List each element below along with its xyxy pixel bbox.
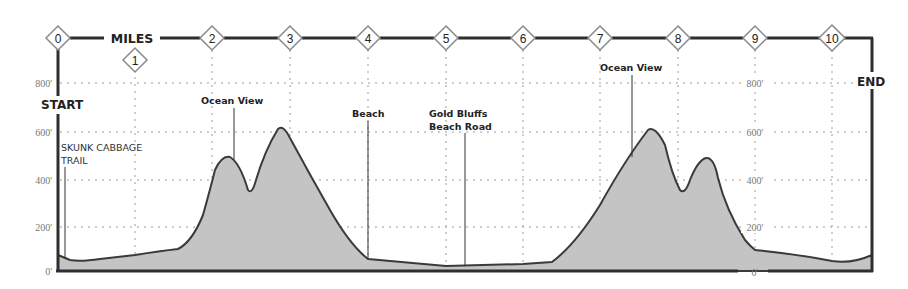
mile-marker-8: 8 [666,26,690,50]
mile-marker-2: 2 [200,26,224,50]
ytick-800: 800' [35,78,52,89]
annotation-skunk-cabbage-trail: SKUNK CABBAGE TRAIL [60,142,142,259]
ytick-400: 400' [35,175,52,186]
svg-text:600': 600' [747,127,764,138]
svg-text:2: 2 [209,32,216,46]
svg-text:5: 5 [443,32,450,46]
mile-marker-7: 7 [588,26,612,50]
svg-text:400': 400' [747,175,764,186]
mile-marker-0: 0 [46,26,70,50]
ytick-200: 200' [35,222,52,233]
mile-marker-4: 4 [356,26,380,50]
ytick-0: 0' [45,266,52,277]
svg-text:6: 6 [520,32,527,46]
svg-text:800': 800' [747,78,764,89]
end-label: END [857,75,885,89]
start-label: START [41,98,84,112]
svg-text:Beach: Beach [352,108,385,119]
annotation-beach: Beach [352,108,385,259]
annotation-gold-bluffs-beach-road: Gold Bluffs Beach Road [429,108,492,266]
elevation-profile-chart: MILES 0 1 2 3 4 5 6 7 8 9 10 [0,0,908,289]
mile-marker-9: 9 [743,26,767,50]
svg-text:SKUNK CABBAGE: SKUNK CABBAGE [61,142,142,153]
svg-text:4: 4 [365,32,372,46]
mile-marker-3: 3 [278,26,302,50]
svg-text:Ocean View: Ocean View [201,95,264,106]
svg-text:200': 200' [747,222,764,233]
ytick-600: 600' [35,127,52,138]
mile-marker-10: 10 [819,25,845,51]
mile-marker-5: 5 [434,26,458,50]
svg-text:10: 10 [825,32,839,46]
svg-text:1: 1 [132,54,139,68]
svg-text:7: 7 [597,32,604,46]
svg-text:3: 3 [287,32,294,46]
svg-text:Ocean View: Ocean View [600,62,663,73]
svg-text:Beach Road: Beach Road [429,121,492,132]
axis-title-miles: MILES [111,31,154,46]
svg-text:Gold Bluffs: Gold Bluffs [429,108,488,119]
mile-marker-6: 6 [511,26,535,50]
svg-text:0: 0 [55,32,62,46]
annotation-ocean-view-1: Ocean View [201,95,264,160]
svg-text:9: 9 [752,32,759,46]
mile-marker-1: 1 [123,48,147,72]
svg-text:8: 8 [675,32,682,46]
svg-text:0': 0' [752,267,759,278]
svg-text:TRAIL: TRAIL [60,155,88,166]
